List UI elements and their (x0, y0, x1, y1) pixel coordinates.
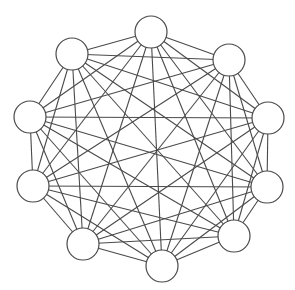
node-5 (146, 250, 178, 282)
graph-nodes (14, 16, 284, 282)
node-4 (218, 220, 250, 252)
edge-3-5 (162, 187, 267, 266)
edge-2-8 (30, 117, 268, 118)
edge-6-9 (72, 54, 83, 244)
node-3 (251, 171, 283, 203)
node-8 (14, 101, 46, 133)
node-1 (213, 44, 245, 76)
edge-0-3 (151, 32, 267, 187)
edge-1-4 (229, 60, 234, 236)
node-6 (67, 228, 99, 260)
node-7 (17, 170, 49, 202)
edge-1-9 (72, 54, 229, 60)
node-9 (56, 38, 88, 70)
node-2 (252, 102, 284, 134)
node-0 (135, 16, 167, 48)
complete-graph-diagram (0, 0, 295, 290)
edge-0-6 (83, 32, 151, 244)
edge-1-8 (30, 60, 229, 117)
